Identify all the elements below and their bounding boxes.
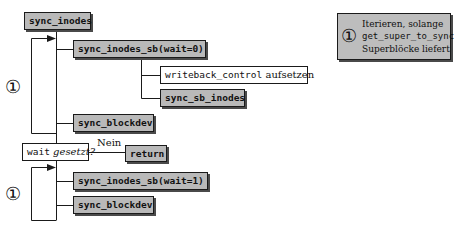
substep-sync-sb-inodes: sync_sb_inodes	[160, 89, 245, 107]
loop2-marker: ①	[5, 185, 21, 203]
loop2-arrow-icon	[47, 164, 56, 171]
step-sync-inodes-sb-wait0: sync_inodes_sb(wait=0)	[73, 40, 206, 58]
step-sync-blockdev-2: sync_blockdev	[73, 196, 154, 214]
legend-line-2: get_super_to_sync	[362, 30, 454, 42]
loop1-marker: ①	[5, 78, 21, 96]
legend-marker: ①	[341, 27, 357, 45]
step-sync-inodes-sb-wait1: sync_inodes_sb(wait=1)	[73, 172, 208, 190]
substep-writeback-control: writeback_control aufsetzen	[160, 66, 308, 84]
decision-code: wait	[27, 146, 50, 157]
step-sync-blockdev-1: sync_blockdev	[73, 114, 154, 132]
legend-line-3: Superblöcke liefert	[362, 43, 450, 55]
root-node-sync-inodes: sync_inodes	[24, 12, 91, 30]
decision-text: gesetzt?	[50, 146, 95, 157]
return-node: return	[125, 145, 167, 162]
decision-wait-set: wait gesetzt?	[22, 143, 89, 161]
legend-box: ① Iterieren, solange get_super_to_sync S…	[337, 13, 451, 60]
flow-diagram: sync_inodes ① sync_inodes_sb(wait=0) wri…	[0, 0, 455, 236]
legend-line-1: Iterieren, solange	[362, 18, 443, 30]
branch-label-no: Nein	[97, 137, 121, 148]
loop1-arrow-icon	[47, 35, 56, 42]
substep-text: aufsetzen	[262, 69, 314, 80]
substep-code: writeback_control	[165, 69, 262, 80]
